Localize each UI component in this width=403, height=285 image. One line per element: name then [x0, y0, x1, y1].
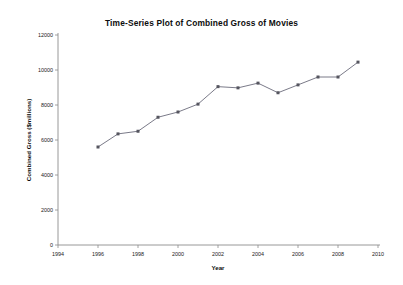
- data-point-marker: [277, 91, 280, 94]
- y-axis-title: Combined Gross ($millions): [25, 99, 32, 182]
- data-point-marker: [337, 76, 340, 79]
- x-tick-label: 2002: [212, 251, 224, 257]
- data-point-marker: [137, 130, 140, 133]
- x-tick-label: 1998: [132, 251, 144, 257]
- x-axis: 199419961998200020022004200620082010: [52, 245, 384, 257]
- chart-container: Time-Series Plot of Combined Gross of Mo…: [0, 0, 403, 285]
- data-point-marker: [157, 116, 160, 119]
- x-tick-label: 1994: [52, 251, 64, 257]
- data-point-marker: [257, 82, 260, 85]
- data-point-marker: [237, 86, 240, 89]
- y-tick-label: 6000: [41, 137, 53, 143]
- data-series-combined-gross: [97, 61, 360, 149]
- data-point-marker: [197, 103, 200, 106]
- x-axis-title: Year: [211, 264, 225, 271]
- x-tick-label: 2010: [372, 251, 384, 257]
- data-point-marker: [117, 132, 120, 135]
- chart-plot-area: 020004000600080001000012000 199419961998…: [0, 0, 403, 285]
- series-line: [98, 62, 358, 147]
- x-tick-label: 2000: [172, 251, 184, 257]
- data-point-marker: [177, 111, 180, 114]
- x-tick-label: 2004: [252, 251, 264, 257]
- y-tick-label: 4000: [41, 172, 53, 178]
- x-tick-label: 1996: [92, 251, 104, 257]
- data-point-marker: [97, 146, 100, 149]
- y-tick-label: 2000: [41, 207, 53, 213]
- y-tick-label: 0: [50, 242, 53, 248]
- y-tick-label: 10000: [38, 67, 53, 73]
- y-tick-label: 8000: [41, 102, 53, 108]
- data-point-marker: [317, 76, 320, 79]
- y-axis: 020004000600080001000012000: [38, 32, 58, 248]
- y-tick-label: 12000: [38, 32, 53, 38]
- data-point-marker: [357, 61, 360, 64]
- data-point-marker: [297, 83, 300, 86]
- x-tick-label: 2006: [292, 251, 304, 257]
- data-point-marker: [217, 85, 220, 88]
- x-tick-label: 2008: [332, 251, 344, 257]
